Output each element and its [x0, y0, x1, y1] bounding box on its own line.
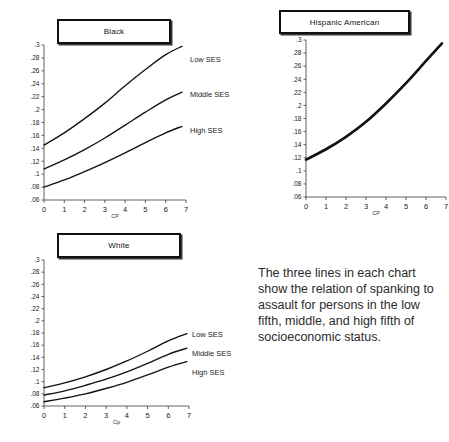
series-line-middle-ses [44, 92, 182, 169]
svg-text:1: 1 [62, 205, 66, 214]
svg-text:4: 4 [123, 205, 127, 214]
svg-text:.14: .14 [30, 354, 39, 361]
svg-text:7: 7 [444, 202, 448, 211]
svg-text:.26: .26 [30, 67, 39, 74]
series-label-low-ses-white: Low SES [192, 330, 223, 339]
series-label-high-ses-black: High SES [190, 126, 223, 135]
svg-text:.28: .28 [30, 268, 39, 275]
svg-text:2: 2 [83, 411, 87, 420]
svg-text:.18: .18 [30, 329, 39, 336]
svg-text:.28: .28 [292, 49, 301, 56]
svg-text:0: 0 [304, 202, 308, 211]
svg-text:.2: .2 [34, 317, 40, 324]
svg-text:.08: .08 [30, 390, 39, 397]
chart-panel-hispanic-american: Hispanic American .06.08.1.12.14.16.18.2… [265, 0, 449, 228]
svg-text:.1: .1 [34, 378, 40, 385]
plot-svg-hispanic-american: .06.08.1.12.14.16.18.2.22.24.26.28.30123… [265, 0, 449, 228]
series-line-high-ses [44, 126, 182, 187]
svg-text:7: 7 [187, 411, 191, 420]
svg-text:1: 1 [63, 411, 67, 420]
svg-text:.3: .3 [34, 256, 40, 263]
svg-text:.26: .26 [30, 281, 39, 288]
series-line-middle-ses [44, 348, 187, 395]
svg-text:.3: .3 [34, 41, 40, 48]
svg-text:.1: .1 [296, 167, 302, 174]
svg-text:Cp: Cp [113, 419, 120, 425]
svg-text:1: 1 [324, 202, 328, 211]
plot-area-hispanic-american: .06.08.1.12.14.16.18.2.22.24.26.28.30123… [265, 0, 449, 228]
svg-text:3: 3 [103, 205, 107, 214]
series-line-low-ses [44, 334, 187, 388]
svg-text:5: 5 [145, 411, 149, 420]
svg-text:.18: .18 [30, 119, 39, 126]
series-label-low-ses-black: Low SES [190, 55, 221, 64]
series-line-high-ses [44, 362, 187, 402]
svg-text:6: 6 [164, 205, 168, 214]
svg-text:.16: .16 [30, 132, 39, 139]
svg-text:2: 2 [82, 205, 86, 214]
svg-text:.24: .24 [30, 80, 39, 87]
series-line-low-ses [306, 43, 442, 159]
chart-panel-white: White .06.08.1.12.14.16.18.2.22.24.26.28… [0, 224, 240, 442]
svg-text:.1: .1 [34, 170, 40, 177]
svg-text:6: 6 [166, 411, 170, 420]
svg-text:.06: .06 [30, 196, 39, 203]
svg-text:.14: .14 [292, 141, 301, 148]
svg-text:.12: .12 [30, 366, 39, 373]
svg-text:.18: .18 [292, 115, 301, 122]
svg-text:.08: .08 [292, 180, 301, 187]
svg-text:0: 0 [42, 411, 46, 420]
series-line-low-ses [44, 46, 182, 145]
svg-text:5: 5 [404, 202, 408, 211]
series-label-middle-ses-white: Middle SES [192, 349, 231, 358]
svg-text:.26: .26 [292, 62, 301, 69]
svg-text:.14: .14 [30, 145, 39, 152]
svg-text:.24: .24 [292, 76, 301, 83]
svg-text:.24: .24 [30, 293, 39, 300]
svg-text:.22: .22 [30, 93, 39, 100]
svg-text:0: 0 [42, 205, 46, 214]
chart-panel-black: Black .06.08.1.12.14.16.18.2.22.24.26.28… [0, 0, 230, 228]
svg-text:.22: .22 [292, 89, 301, 96]
svg-text:.2: .2 [296, 102, 302, 109]
svg-text:.06: .06 [292, 193, 301, 200]
svg-text:.28: .28 [30, 54, 39, 61]
svg-text:3: 3 [104, 411, 108, 420]
svg-text:6: 6 [424, 202, 428, 211]
svg-text:.16: .16 [292, 128, 301, 135]
svg-text:CP: CP [111, 213, 119, 219]
plot-area-black: .06.08.1.12.14.16.18.2.22.24.26.28.30123… [0, 0, 230, 228]
svg-text:4: 4 [125, 411, 129, 420]
series-label-high-ses-white: High SES [192, 368, 225, 377]
svg-text:.06: .06 [30, 402, 39, 409]
svg-text:4: 4 [384, 202, 388, 211]
svg-text:.3: .3 [296, 36, 302, 43]
svg-text:2: 2 [344, 202, 348, 211]
svg-text:.08: .08 [30, 183, 39, 190]
svg-text:3: 3 [364, 202, 368, 211]
svg-text:.12: .12 [292, 154, 301, 161]
svg-text:.12: .12 [30, 158, 39, 165]
svg-text:.16: .16 [30, 341, 39, 348]
svg-text:7: 7 [184, 205, 188, 214]
svg-text:.2: .2 [34, 106, 40, 113]
svg-text:.22: .22 [30, 305, 39, 312]
series-label-middle-ses-black: Middle SES [190, 90, 229, 99]
plot-svg-black: .06.08.1.12.14.16.18.2.22.24.26.28.30123… [0, 0, 230, 228]
svg-text:5: 5 [143, 205, 147, 214]
svg-text:CP: CP [372, 210, 380, 216]
figure-caption: The three lines in each chart show the r… [258, 266, 438, 345]
